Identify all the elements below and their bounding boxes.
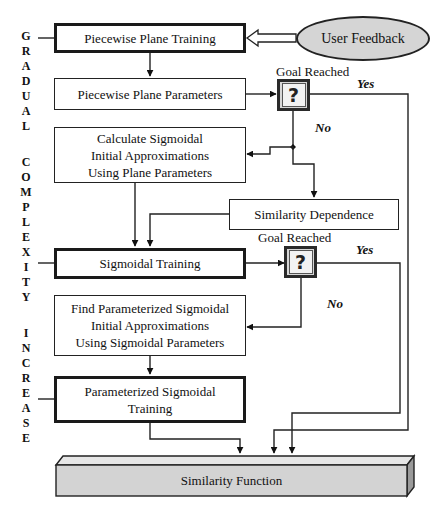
- side-letter: O: [19, 170, 33, 185]
- goal-reached-label: Goal Reached: [276, 64, 349, 80]
- node-label-line: Calculate Sigmoidal: [97, 130, 203, 147]
- side-letter: P: [19, 200, 33, 215]
- node-label-line: Initial Approximations: [91, 317, 209, 334]
- side-letter: R: [19, 44, 33, 59]
- side-letter: C: [19, 356, 33, 371]
- node-label: Similarity Dependence: [254, 206, 374, 223]
- find-parameterized-sigmoidal-node: Find Parameterized Sigmoidal Initial App…: [54, 295, 246, 356]
- side-letter: R: [19, 371, 33, 386]
- node-label-line: Find Parameterized Sigmoidal: [71, 300, 229, 317]
- side-letter: E: [19, 230, 33, 245]
- node-label: Similarity Function: [181, 473, 282, 489]
- side-letter: I: [19, 260, 33, 275]
- node-label-line: Initial Approximations: [91, 147, 209, 164]
- side-letter: N: [19, 341, 33, 356]
- decision-box: ?: [284, 246, 317, 278]
- side-letter: A: [19, 104, 33, 119]
- side-letter: X: [19, 245, 33, 260]
- no-label: No: [327, 296, 343, 312]
- node-label: Sigmoidal Training: [100, 255, 201, 272]
- decision-box: ?: [277, 79, 310, 111]
- side-letter: L: [19, 119, 33, 134]
- side-letter: U: [19, 89, 33, 104]
- node-label-line: Parameterized Sigmoidal: [84, 383, 215, 400]
- question-mark-icon: ?: [289, 250, 313, 274]
- sigmoidal-training-node: Sigmoidal Training: [54, 248, 246, 279]
- yes-label: Yes: [356, 242, 373, 258]
- yes-label: Yes: [357, 76, 374, 92]
- side-letter: Y: [19, 290, 33, 305]
- calculate-sigmoidal-node: Calculate Sigmoidal Initial Approximatio…: [54, 127, 246, 183]
- side-letter: A: [19, 401, 33, 416]
- side-letter: A: [19, 59, 33, 74]
- side-letter: M: [19, 185, 33, 200]
- side-letter: E: [19, 431, 33, 446]
- side-letter: T: [19, 275, 33, 290]
- piecewise-plane-training-node: Piecewise Plane Training: [54, 23, 246, 53]
- node-label: Piecewise Plane Parameters: [77, 86, 222, 103]
- parameterized-sigmoidal-training-node: Parameterized Sigmoidal Training: [54, 376, 246, 423]
- side-letter: C: [19, 155, 33, 170]
- question-mark-icon: ?: [282, 83, 306, 107]
- side-letter: L: [19, 215, 33, 230]
- side-letter: S: [19, 416, 33, 431]
- node-label-line: Training: [128, 400, 172, 417]
- user-feedback-node: User Feedback: [296, 16, 430, 61]
- node-label: Piecewise Plane Training: [84, 30, 215, 47]
- no-label: No: [315, 120, 331, 136]
- goal-reached-label: Goal Reached: [258, 230, 331, 246]
- piecewise-plane-parameters-node: Piecewise Plane Parameters: [54, 78, 246, 110]
- side-letter: I: [19, 326, 33, 341]
- node-label: User Feedback: [321, 31, 405, 47]
- node-label-line: Using Plane Parameters: [88, 164, 212, 181]
- similarity-dependence-node: Similarity Dependence: [229, 199, 399, 230]
- side-letter: D: [19, 74, 33, 89]
- side-letter: G: [19, 29, 33, 44]
- similarity-function-node: Similarity Function: [56, 465, 407, 496]
- side-letter: E: [19, 386, 33, 401]
- node-label-line: Using Sigmoidal Parameters: [76, 334, 225, 351]
